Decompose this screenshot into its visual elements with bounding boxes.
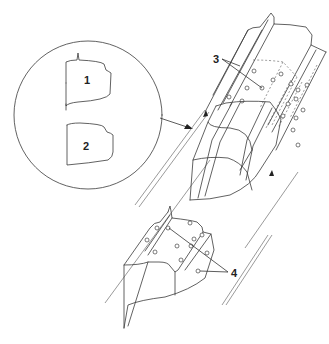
callout-4: 4 xyxy=(231,267,238,279)
lower-bracket-assembly xyxy=(124,206,214,328)
callout-3: 3 xyxy=(213,53,219,65)
detail-inset: 1 2 xyxy=(14,41,162,189)
callout-2: 2 xyxy=(83,140,89,152)
upper-channel-assembly xyxy=(205,13,326,150)
exploded-view-diagram: 1 2 xyxy=(0,0,329,344)
guide-arrow-up-icon xyxy=(269,170,274,176)
callout-1: 1 xyxy=(84,74,90,86)
diagram-canvas: 1 2 xyxy=(0,0,329,344)
inset-pointer-arrow xyxy=(160,118,193,129)
profile-2-shape xyxy=(67,123,113,165)
callout-4-leaders xyxy=(169,228,228,272)
